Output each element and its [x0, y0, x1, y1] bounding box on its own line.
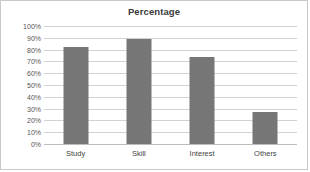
y-axis-tick-label: 50% — [3, 82, 41, 89]
bar-interest[interactable] — [190, 57, 215, 144]
bar-series — [44, 26, 297, 144]
bar-skill[interactable] — [126, 39, 151, 144]
bar-slot — [234, 26, 297, 144]
x-axis-tick-label: Skill — [132, 149, 146, 158]
y-axis-tick-label: 90% — [3, 34, 41, 41]
y-axis-tick-label: 20% — [3, 117, 41, 124]
x-axis-tick-label: Others — [254, 149, 277, 158]
plot-area — [44, 26, 297, 144]
y-axis-tick-label: 60% — [3, 70, 41, 77]
chart-title: Percentage — [1, 6, 307, 17]
bar-slot — [171, 26, 234, 144]
y-axis-tick-label: 70% — [3, 58, 41, 65]
y-axis-labels: 100%90%80%70%60%50%40%30%20%10%0% — [1, 26, 41, 144]
x-axis-tick-label: Interest — [190, 149, 215, 158]
y-axis-tick-label: 40% — [3, 93, 41, 100]
y-axis-tick-label: 0% — [3, 141, 41, 148]
y-axis-tick-label: 10% — [3, 129, 41, 136]
chart-container: Percentage 100%90%80%70%60%50%40%30%20%1… — [0, 0, 308, 170]
bar-slot — [107, 26, 170, 144]
y-axis-tick-label: 80% — [3, 46, 41, 53]
x-axis-tick-label: Study — [66, 149, 85, 158]
bar-study[interactable] — [63, 47, 88, 144]
bar-others[interactable] — [253, 112, 278, 144]
bar-slot — [44, 26, 107, 144]
y-axis-tick-label: 30% — [3, 105, 41, 112]
gridline — [44, 144, 297, 145]
y-axis-tick-label: 100% — [3, 23, 41, 30]
